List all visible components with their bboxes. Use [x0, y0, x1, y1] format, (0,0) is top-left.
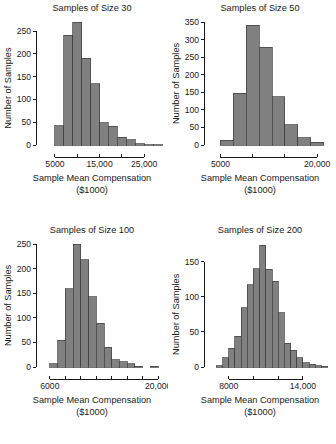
y-axis-tick-label: 150 — [17, 72, 32, 82]
histogram-bar — [291, 350, 297, 367]
chart-panel-samples-of-size-30: Samples of Size 30050100150200250500015,… — [0, 0, 168, 222]
chart-title: Samples of Size 50 — [220, 3, 299, 13]
chart-panel-samples-of-size-100: Samples of Size 100050100150200250600020… — [0, 222, 168, 444]
histogram-bar — [117, 137, 126, 145]
y-axis-tick-label: 100 — [17, 313, 32, 323]
x-axis-label-units: ($1000) — [244, 185, 276, 195]
x-axis-label-units: ($1000) — [244, 407, 276, 417]
x-axis-tick-label: 20,000 — [145, 381, 168, 391]
y-axis-tick-label: 200 — [17, 49, 32, 59]
histogram-bar — [311, 142, 324, 145]
y-axis-label: Number of Samples — [3, 265, 13, 347]
histogram-bar — [241, 308, 247, 367]
y-axis-tick-label: 100 — [17, 94, 32, 104]
histogram-bar — [55, 126, 64, 145]
histogram-bar — [144, 145, 153, 146]
histogram-bar — [272, 281, 278, 367]
histogram-bar — [126, 140, 135, 145]
y-axis-tick-label: 200 — [185, 70, 200, 80]
histogram-bar — [91, 84, 100, 146]
histogram-bar — [303, 363, 309, 367]
chart-title: Samples of Size 100 — [50, 225, 134, 235]
histogram-bar — [104, 347, 112, 367]
x-axis-tick-label: 5000 — [45, 159, 64, 169]
x-axis-label: Sample Mean Compensation — [201, 395, 319, 405]
y-axis-tick-label: 350 — [185, 17, 200, 27]
histogram-bar — [321, 366, 327, 367]
y-axis-label: Number of Samples — [171, 43, 181, 125]
histogram-bar — [246, 25, 259, 145]
histogram-bar — [278, 313, 284, 367]
histogram-bar — [82, 58, 91, 145]
y-axis-tick-label: 100 — [185, 292, 200, 302]
x-axis-tick-label: 25,000 — [131, 159, 158, 169]
histogram-bar — [247, 285, 253, 367]
x-axis-tick-label: 6000 — [40, 381, 59, 391]
y-axis-tick-label: 0 — [26, 140, 31, 150]
y-axis-tick-label: 200 — [17, 264, 32, 274]
histogram-bar — [135, 366, 143, 367]
histogram-bar — [89, 297, 97, 367]
histogram-bar — [285, 125, 298, 145]
histogram-bar — [127, 364, 135, 367]
x-axis-tick-label: 5000 — [211, 159, 230, 169]
chart-title: Samples of Size 30 — [52, 3, 131, 13]
histogram-bar — [272, 97, 285, 145]
histogram-bar — [100, 123, 109, 145]
chart-panel-samples-of-size-50: Samples of Size 500501001502002503003505… — [168, 0, 336, 222]
y-axis-label: Number of Samples — [171, 273, 181, 355]
histogram-bar — [297, 358, 303, 367]
x-axis-label-units: ($1000) — [76, 407, 108, 417]
y-axis-tick-label: 50 — [189, 327, 199, 337]
histogram-bar — [153, 145, 162, 146]
histogram-bar — [298, 138, 311, 145]
histogram-bar — [112, 360, 120, 367]
x-axis-tick-label: 14,000 — [290, 381, 317, 391]
x-axis-label: Sample Mean Compensation — [201, 173, 319, 183]
y-axis-tick-label: 50 — [21, 337, 31, 347]
histogram-bar — [216, 366, 222, 367]
x-axis-label: Sample Mean Compensation — [33, 173, 151, 183]
x-axis-tick-label: 15,000 — [86, 159, 113, 169]
y-axis-tick-label: 0 — [194, 362, 199, 372]
chart-panel-samples-of-size-200: Samples of Size 200050100150800014,000Sa… — [168, 222, 336, 444]
y-axis-tick-label: 150 — [185, 257, 200, 267]
chart-title: Samples of Size 200 — [218, 225, 302, 235]
histogram-bar — [119, 362, 127, 367]
histogram-bar — [260, 245, 266, 367]
histogram-bar — [235, 336, 241, 367]
histogram-bar — [309, 364, 315, 367]
histogram-bar — [233, 93, 246, 145]
histogram-bar — [65, 289, 73, 367]
histogram-bar — [150, 366, 158, 367]
y-axis-tick-label: 300 — [185, 35, 200, 45]
y-axis-tick-label: 100 — [185, 105, 200, 115]
x-axis-tick-label: 20,000 — [304, 159, 331, 169]
y-axis-tick-label: 50 — [189, 122, 199, 132]
y-axis-tick-label: 150 — [17, 288, 32, 298]
x-axis-label-units: ($1000) — [76, 185, 108, 195]
histogram-bar — [229, 348, 235, 367]
y-axis-tick-label: 0 — [26, 362, 31, 372]
y-axis-tick-label: 250 — [17, 239, 32, 249]
y-axis-label: Number of Samples — [3, 47, 13, 129]
histogram-bar — [315, 366, 321, 367]
y-axis-tick-label: 250 — [17, 26, 32, 36]
histogram-bar — [81, 260, 89, 367]
histogram-bar — [50, 364, 58, 367]
y-axis-tick-label: 150 — [185, 87, 200, 97]
histogram-bar — [135, 144, 144, 145]
histogram-grid: Samples of Size 30050100150200250500015,… — [0, 0, 336, 444]
histogram-bar — [223, 358, 229, 367]
x-axis-label: Sample Mean Compensation — [33, 395, 151, 405]
histogram-bar — [64, 35, 73, 145]
y-axis-tick-label: 0 — [194, 140, 199, 150]
histogram-bar — [58, 340, 66, 367]
x-axis-tick-label: 8000 — [219, 381, 238, 391]
histogram-bar — [108, 126, 117, 145]
histogram-bar — [73, 22, 82, 145]
histogram-bar — [253, 269, 259, 367]
y-axis-tick-label: 50 — [21, 117, 31, 127]
histogram-bar — [259, 47, 272, 145]
histogram-bar — [220, 140, 233, 145]
